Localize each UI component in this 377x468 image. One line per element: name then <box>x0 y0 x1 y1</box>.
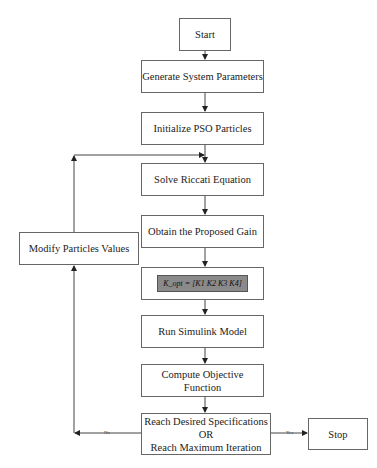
gain-equation: K_opt = [K1 K2 K3 K4] <box>157 275 248 292</box>
modify-label: Modify Particles Values <box>29 242 130 255</box>
start-box: Start <box>179 18 231 51</box>
start-label: Start <box>195 28 215 41</box>
obtain-label: Obtain the Proposed Gain <box>148 225 257 238</box>
gain-equation-box: K_opt = [K1 K2 K3 K4] <box>141 267 264 300</box>
decision-line-2: OR <box>199 428 214 441</box>
initialize-particles-box: Initialize PSO Particles <box>141 112 264 145</box>
run-simulink-box: Run Simulink Model <box>141 315 264 348</box>
modify-particles-box: Modify Particles Values <box>19 232 139 265</box>
generate-label: Generate System Parameters <box>142 70 263 83</box>
obtain-gain-box: Obtain the Proposed Gain <box>141 215 264 248</box>
stop-box: Stop <box>308 418 368 450</box>
no-label: No <box>104 430 110 435</box>
stop-label: Stop <box>328 428 347 441</box>
initialize-label: Initialize PSO Particles <box>154 122 252 135</box>
solve-riccati-box: Solve Riccati Equation <box>141 163 264 196</box>
solve-label: Solve Riccati Equation <box>154 173 251 186</box>
yes-label: Yes <box>286 430 293 435</box>
decision-line-3: Reach Maximum Iteration <box>151 441 262 454</box>
run-label: Run Simulink Model <box>158 325 247 338</box>
decision-box: Reach Desired Specifications OR Reach Ma… <box>141 413 271 455</box>
generate-parameters-box: Generate System Parameters <box>141 60 264 93</box>
compute-objective-box: Compute Objective Function <box>141 364 264 397</box>
decision-line-1: Reach Desired Specifications <box>144 415 268 428</box>
compute-label: Compute Objective Function <box>142 368 263 394</box>
